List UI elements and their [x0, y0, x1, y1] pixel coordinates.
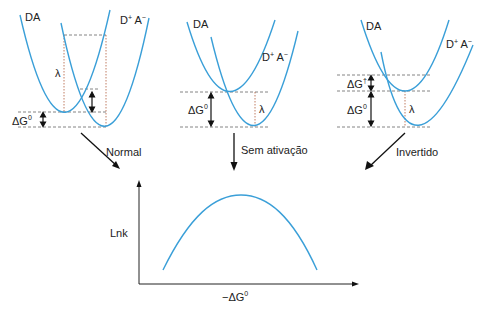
- x-axis-label: −ΔG0: [222, 290, 248, 303]
- label-sem-ativacao: Sem ativação: [241, 144, 308, 156]
- arrow-sem-ativacao: [231, 133, 238, 171]
- label-lambda: λ: [259, 103, 265, 115]
- y-axis-arrowhead: [137, 180, 142, 187]
- label-da: DA: [366, 20, 382, 32]
- dgdagger-double-arrow: [369, 76, 374, 91]
- x-axis-arrowhead: [352, 282, 359, 287]
- marcus-theory-diagram: DA D+ A− λ ΔG0 Normal DA D+ A− λ ΔG0 Sem: [0, 0, 481, 309]
- label-dpam: D+ A−: [262, 51, 288, 63]
- label-da: DA: [193, 18, 209, 30]
- label-dgdagger: ΔG†: [347, 77, 367, 90]
- label-lambda: λ: [409, 103, 415, 115]
- panel-invertido: DA D+ A− λ ΔG† ΔG0 Invertido: [337, 20, 473, 170]
- label-dpam: D+ A−: [446, 38, 472, 50]
- curve-dpam: [211, 31, 298, 126]
- rate-plot: Lnk −ΔG0: [110, 180, 359, 303]
- panel-normal: DA D+ A− λ ΔG0 Normal: [12, 10, 149, 169]
- label-normal: Normal: [106, 146, 141, 158]
- panel-sem-ativacao: DA D+ A− λ ΔG0 Sem ativação: [180, 18, 308, 171]
- label-dg0: ΔG0: [12, 114, 32, 127]
- y-axis-label: Lnk: [110, 227, 128, 239]
- curve-dpam: [61, 18, 149, 126]
- label-lambda: λ: [55, 67, 61, 79]
- dg0-double-arrow: [209, 93, 214, 126]
- curve-da: [20, 10, 110, 112]
- rate-curve: [163, 195, 317, 270]
- dg0-double-arrow: [369, 92, 374, 126]
- label-da: DA: [25, 11, 41, 23]
- dg0-double-arrow: [41, 113, 46, 127]
- curve-dpam: [381, 45, 473, 125]
- label-invertido: Invertido: [396, 146, 438, 158]
- label-dg0: ΔG0: [188, 103, 208, 116]
- activation-double-arrow: [90, 92, 95, 112]
- label-dpam: D+ A−: [120, 14, 146, 26]
- label-dg0: ΔG0: [347, 103, 367, 116]
